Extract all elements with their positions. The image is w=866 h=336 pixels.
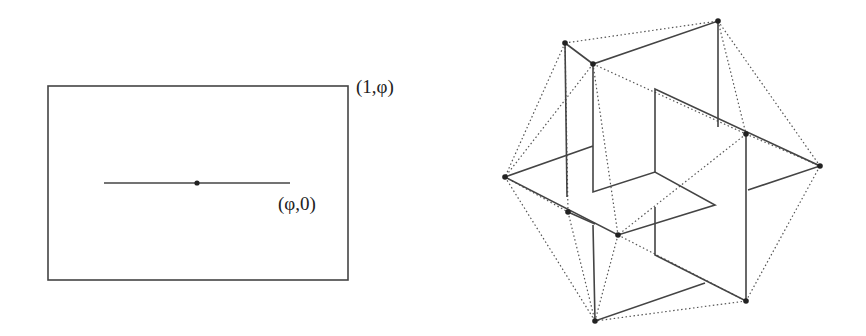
vertex-point [590,61,596,67]
icosahedron-edge [718,21,746,134]
vertex-point [565,209,571,215]
vertex-point [817,163,823,169]
icosahedron-edge [505,177,595,321]
vertex-point [743,131,749,137]
icosahedron-edge [593,64,618,235]
center-point [194,180,199,185]
corner-label: (1,φ) [356,76,394,98]
vertex-point [615,232,621,238]
vertex-point [562,40,568,46]
icosahedron-edge [565,21,718,43]
golden-rectangle-edge [565,43,567,197]
icosahedron-edge [595,301,746,321]
golden-rectangle-edge [655,89,820,190]
golden-rectangle-edge [568,212,595,224]
icosahedron-edge [595,235,618,321]
icosahedron-edge [593,64,746,134]
golden-rectangle-edge [505,64,715,235]
golden-rectangles-figure [0,0,866,336]
diagram-canvas: (1,φ) (φ,0) [0,0,866,336]
icosahedron-edge [618,134,746,235]
golden-rectangle-edge [655,134,746,301]
icosahedron-edge [505,64,593,177]
segment-label: (φ,0) [278,193,316,215]
vertex-point [502,174,508,180]
golden-rectangle-edge [593,225,705,321]
icosahedron-edge [568,212,595,321]
icosahedron-edge [505,43,565,177]
vertex-point [743,298,749,304]
vertex-point [715,18,721,24]
vertex-point [592,318,598,324]
